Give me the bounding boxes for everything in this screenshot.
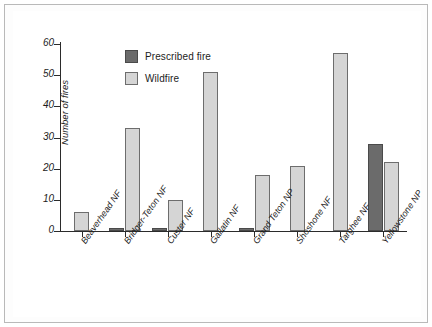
y-axis-tick-labels: 0102030405060 — [13, 11, 54, 251]
y-axis-tick — [54, 106, 60, 107]
y-axis-tick-label: 10 — [16, 193, 54, 204]
bar-wildfire — [333, 53, 348, 231]
bar-prescribed-fire — [239, 228, 254, 231]
legend-item-prescribed-fire: Prescribed fire — [125, 48, 211, 65]
bar-wildfire — [290, 166, 305, 231]
y-axis-tick — [54, 75, 60, 76]
plot-area — [60, 44, 405, 231]
y-axis-tick — [54, 231, 60, 232]
y-axis-tick-label: 20 — [16, 162, 54, 173]
y-axis-tick-label: 60 — [16, 37, 54, 48]
legend-label-prescribed-fire: Prescribed fire — [145, 51, 211, 62]
y-axis-tick — [54, 138, 60, 139]
x-axis-tick — [383, 232, 384, 237]
bar-wildfire — [74, 212, 89, 231]
legend-item-wildfire: Wildfire — [125, 70, 211, 87]
y-axis-tick — [54, 169, 60, 170]
bar-wildfire — [255, 175, 270, 231]
legend-swatch-prescribed-fire — [125, 50, 138, 63]
bar-wildfire — [125, 128, 140, 231]
y-axis-tick-label: 0 — [16, 224, 54, 235]
y-axis-tick-label: 30 — [16, 131, 54, 142]
x-axis-tick — [168, 232, 169, 237]
x-axis-tick — [82, 232, 83, 237]
y-axis-tick — [54, 200, 60, 201]
legend: Prescribed fire Wildfire — [125, 48, 211, 92]
chart-canvas: Number of fires 0102030405060 Beaverhead… — [13, 11, 421, 317]
y-axis-tick-label: 50 — [16, 68, 54, 79]
x-axis-tick — [340, 232, 341, 237]
y-axis-tick — [54, 44, 60, 45]
bar-wildfire — [168, 200, 183, 231]
x-axis-tick — [125, 232, 126, 237]
x-axis-tick — [211, 232, 212, 237]
figure-frame: Number of fires 0102030405060 Beaverhead… — [4, 4, 428, 323]
legend-swatch-wildfire — [125, 72, 138, 85]
bar-wildfire — [384, 162, 399, 231]
bar-prescribed-fire — [368, 144, 383, 231]
legend-label-wildfire: Wildfire — [145, 73, 179, 84]
bar-wildfire — [203, 72, 218, 231]
bar-prescribed-fire — [152, 228, 167, 231]
x-axis-tick — [297, 232, 298, 237]
x-axis-line — [60, 231, 407, 232]
bar-prescribed-fire — [109, 228, 124, 231]
y-axis-tick-label: 40 — [16, 99, 54, 110]
x-axis-tick — [254, 232, 255, 237]
